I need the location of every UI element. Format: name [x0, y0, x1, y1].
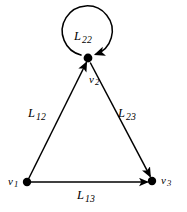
vertex-label-v3: v3	[161, 175, 171, 186]
edge-label-L13-base: L	[77, 188, 84, 202]
edge-label-L13-sub: 13	[84, 193, 95, 204]
self-loop-label-L22-base: L	[74, 29, 81, 43]
edge-label-L12-base: L	[28, 106, 35, 120]
edge-label-L12: L12	[28, 107, 46, 120]
vertex-dot-v1	[23, 178, 31, 186]
vertex-dot-v2	[84, 54, 93, 63]
edge-label-L23-sub: 23	[125, 111, 136, 122]
vertex-label-v1: v1	[8, 176, 18, 187]
edge-L12	[27, 63, 86, 183]
graph-diagram: L22 L12 L23 L13 v1 v2 v3	[0, 0, 187, 212]
edge-label-L13: L13	[77, 189, 95, 202]
vertex-label-v2: v2	[89, 74, 99, 85]
edge-label-L23-base: L	[118, 106, 125, 120]
vertex-dot-v3	[148, 177, 156, 185]
vertex-label-v1-sub: 1	[13, 179, 18, 189]
edge-label-L12-sub: 12	[35, 111, 46, 122]
self-loop-label-L22-sub: 22	[81, 34, 92, 45]
edge-label-L23: L23	[118, 107, 136, 120]
vertex-label-v3-sub: 3	[166, 178, 171, 188]
self-loop-label-L22: L22	[74, 30, 92, 43]
vertex-label-v2-sub: 2	[94, 77, 99, 87]
